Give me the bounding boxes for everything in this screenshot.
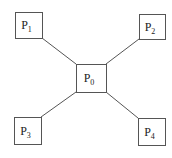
star-topology-diagram: P0P1P2P3P4 <box>0 0 172 158</box>
edge-p2-p0 <box>106 39 139 64</box>
node-p0: P0 <box>77 65 107 93</box>
node-p1: P1 <box>16 13 43 39</box>
nodes: P0P1P2P3P4 <box>15 13 166 146</box>
edge-p3-p0 <box>41 92 76 117</box>
edge-p1-p0 <box>42 38 76 64</box>
edge-p4-p0 <box>106 92 138 118</box>
node-p4: P4 <box>139 119 166 146</box>
node-p3: P3 <box>15 118 42 145</box>
node-p2: P2 <box>140 15 166 40</box>
